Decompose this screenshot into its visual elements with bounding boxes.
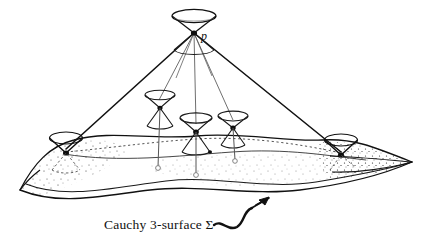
cone-edge-left-vertex-dot — [63, 150, 69, 155]
cone-generator-inner-4 — [176, 33, 194, 78]
past-light-cone — [66, 33, 341, 152]
figure-root: p — [0, 0, 436, 246]
apex-point-dot — [191, 30, 197, 35]
cone-generator-right — [194, 33, 341, 152]
cone-interior-left-endpoint — [156, 166, 161, 171]
caption-annotation: Cauchy 3-surface Σ — [104, 197, 269, 232]
apex-point-label: p — [200, 29, 207, 43]
cauchy-surface-diagram: p — [0, 0, 436, 246]
caption-squiggle — [214, 208, 252, 228]
cone-generator-inner-2 — [194, 33, 196, 124]
cone-interior-center-lower-dot — [208, 150, 212, 154]
cone-interior-right-endpoint — [233, 159, 238, 164]
cone-interior-left-lower-arc — [147, 126, 173, 129]
caption-label: Cauchy 3-surface Σ — [104, 217, 214, 232]
cone-interior-center-endpoint — [194, 173, 199, 178]
